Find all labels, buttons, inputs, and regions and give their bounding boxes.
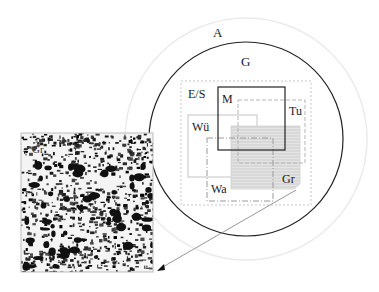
label-g: G — [241, 54, 250, 69]
label-gr: Gr — [282, 172, 295, 186]
label-wu: Wü — [192, 120, 209, 134]
label-e-s: E/S — [188, 87, 205, 101]
label-m: M — [222, 92, 233, 106]
diagram-canvas: A G E/S M Tu Wü Gr Wa Gr — [0, 0, 379, 292]
label-tu: Tu — [289, 104, 302, 118]
photo-label-gr: Gr — [32, 143, 44, 155]
arrowhead-icon — [157, 264, 165, 271]
label-a: A — [213, 25, 223, 40]
label-wa: Wa — [211, 182, 227, 196]
